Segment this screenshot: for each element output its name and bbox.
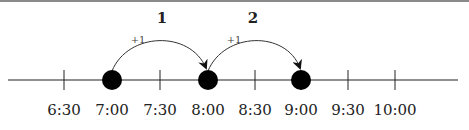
- increment-label-2: +1: [227, 34, 242, 45]
- step-label-1: 1: [157, 9, 167, 27]
- increment-label-1: +1: [131, 34, 146, 45]
- jump-arc-2: [208, 41, 300, 71]
- tick-label: 8:30: [238, 101, 272, 119]
- tick-label: 10:00: [373, 101, 416, 119]
- tick-label: 8:00: [191, 101, 225, 119]
- number-line-svg: 1 2 +1 +1 6:30 7:00 7:30 8:00 8:30 9:00 …: [0, 0, 469, 130]
- point-dot-8-00: [198, 70, 218, 90]
- point-dot-9-00: [291, 70, 311, 90]
- tick-label: 6:30: [47, 101, 81, 119]
- tick-label: 9:30: [331, 101, 365, 119]
- tick-label: 7:00: [95, 101, 129, 119]
- jump-arc-1: [112, 41, 206, 71]
- tick-label: 7:30: [143, 101, 177, 119]
- top-border: [0, 0, 469, 2]
- step-label-2: 2: [248, 9, 258, 27]
- number-line-diagram: 1 2 +1 +1 6:30 7:00 7:30 8:00 8:30 9:00 …: [0, 0, 469, 130]
- tick-label: 9:00: [284, 101, 318, 119]
- point-dot-7-00: [102, 70, 122, 90]
